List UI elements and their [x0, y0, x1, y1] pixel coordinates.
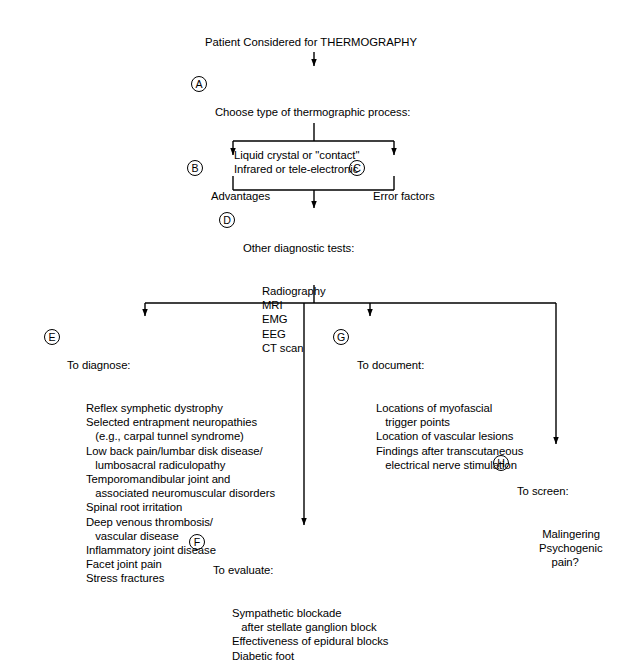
node-marker-g: G — [333, 329, 349, 345]
node-h-heading: To screen: — [517, 484, 603, 498]
node-c: Error factors — [373, 161, 435, 260]
node-f-lines: Sympathetic blockade after stellate gang… — [213, 606, 388, 663]
node-g: To document: Locations of myofascial tri… — [357, 330, 523, 500]
node-marker-h: H — [493, 455, 509, 471]
node-marker-c: C — [349, 160, 365, 176]
node-marker-b: B — [187, 160, 203, 176]
node-a-heading: Choose type of thermographic process: — [215, 105, 410, 119]
page-title: Patient Considered for THERMOGRAPHY — [205, 35, 417, 49]
node-marker-d: D — [219, 212, 235, 228]
node-h: To screen: Malingering Psychogenic pain? — [517, 456, 603, 598]
node-b-heading: Advantages — [211, 189, 270, 203]
node-f-heading: To evaluate: — [213, 563, 388, 577]
node-marker-f: F — [189, 534, 205, 550]
node-d-heading: Other diagnostic tests: — [243, 241, 354, 255]
node-f: To evaluate: Sympathetic blockade after … — [213, 535, 388, 664]
node-g-heading: To document: — [357, 358, 523, 372]
node-c-heading: Error factors — [373, 189, 435, 203]
node-e-heading: To diagnose: — [67, 358, 275, 372]
node-h-lines: Malingering Psychogenic pain? — [517, 527, 603, 570]
node-marker-e: E — [44, 329, 60, 345]
node-marker-a: A — [191, 76, 207, 92]
